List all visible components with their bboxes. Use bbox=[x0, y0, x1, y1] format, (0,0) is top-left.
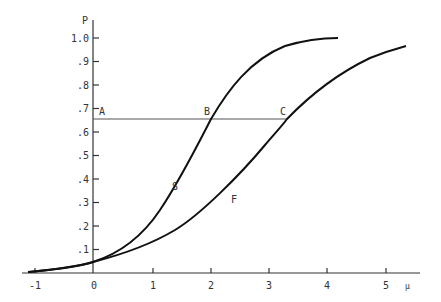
curve-s bbox=[28, 38, 338, 272]
point-c-label: C bbox=[280, 106, 286, 117]
y-ticks bbox=[93, 38, 99, 250]
point-a-label: A bbox=[99, 106, 105, 117]
y-tick-label: .5 bbox=[77, 150, 89, 161]
y-tick-label: .3 bbox=[77, 197, 89, 208]
y-tick-label: .8 bbox=[77, 80, 89, 91]
x-tick-label: 3 bbox=[266, 280, 272, 291]
chart: .1 .2 .3 .4 .5 .6 .7 .8 .9 1.0 P -1 0 1 … bbox=[0, 0, 441, 302]
point-b-label: B bbox=[204, 106, 210, 117]
x-tick-label: -1 bbox=[29, 280, 41, 291]
y-tick-label: .1 bbox=[77, 244, 89, 255]
x-tick-label: 0 bbox=[91, 280, 97, 291]
y-tick-label: .9 bbox=[77, 56, 89, 67]
curve-f-label: F bbox=[231, 194, 237, 205]
y-tick-label: 1.0 bbox=[71, 33, 89, 44]
x-tick-label: 2 bbox=[208, 280, 214, 291]
y-axis-label: P bbox=[82, 15, 88, 26]
x-axis-label: μ bbox=[405, 282, 410, 291]
x-tick-labels: -1 0 1 2 3 4 5 μ bbox=[29, 280, 410, 291]
x-tick-label: 5 bbox=[383, 280, 389, 291]
curve-s-label: S bbox=[172, 181, 178, 192]
y-tick-labels: .1 .2 .3 .4 .5 .6 .7 .8 .9 1.0 P bbox=[71, 15, 89, 255]
x-tick-label: 1 bbox=[150, 280, 156, 291]
y-tick-label: .6 bbox=[77, 127, 89, 138]
y-tick-label: .4 bbox=[77, 174, 89, 185]
y-tick-label: .2 bbox=[77, 221, 89, 232]
x-tick-label: 4 bbox=[324, 280, 330, 291]
x-ticks bbox=[35, 268, 386, 273]
y-tick-label: .7 bbox=[77, 103, 89, 114]
